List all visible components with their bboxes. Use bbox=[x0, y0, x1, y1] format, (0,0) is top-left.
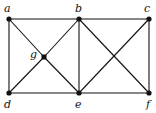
node-f bbox=[146, 90, 151, 95]
node-label-e: e bbox=[75, 99, 82, 110]
edge-g-b bbox=[44, 19, 79, 57]
node-d bbox=[6, 90, 11, 95]
node-label-a: a bbox=[4, 3, 11, 14]
node-label-c: c bbox=[144, 3, 150, 14]
node-label-b: b bbox=[75, 3, 82, 14]
node-a bbox=[6, 16, 11, 21]
node-g bbox=[42, 55, 47, 60]
edge-a-g bbox=[9, 19, 44, 57]
edge-d-g bbox=[9, 57, 44, 93]
node-c bbox=[146, 16, 151, 21]
node-label-f: f bbox=[146, 99, 150, 110]
node-e bbox=[76, 90, 81, 95]
graph-diagram: abcdefg bbox=[0, 0, 156, 113]
node-b bbox=[76, 16, 81, 21]
graph-canvas bbox=[0, 0, 156, 113]
node-label-g: g bbox=[30, 49, 37, 60]
edge-g-e bbox=[44, 57, 79, 93]
node-label-d: d bbox=[4, 99, 11, 110]
